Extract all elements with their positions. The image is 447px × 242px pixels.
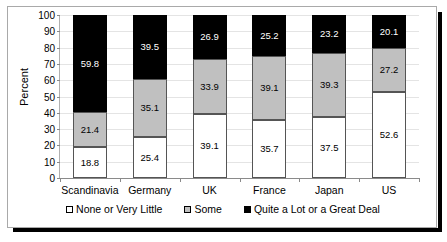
legend-item[interactable]: None or Very Little	[66, 203, 162, 215]
chart-figure: Percent 010203040506070809010018.821.459…	[7, 6, 437, 228]
bar-segment[interactable]: 27.2	[372, 48, 406, 92]
x-axis-category-label: Japan	[315, 184, 344, 196]
y-axis-tick-label: 0	[49, 173, 55, 184]
bar-segment[interactable]: 37.5	[312, 117, 346, 178]
y-axis-tick-label: 30	[44, 124, 55, 135]
y-axis-tick-mark	[57, 129, 60, 130]
bar-segment[interactable]: 59.8	[73, 15, 107, 112]
bar-stack[interactable]: 25.435.139.5	[133, 15, 167, 178]
x-axis-tick-mark	[60, 178, 61, 182]
gridline	[60, 129, 419, 130]
bar-segment[interactable]: 39.1	[193, 114, 227, 178]
legend-swatch-icon	[184, 206, 191, 213]
y-axis-tick-label: 70	[44, 58, 55, 69]
y-axis-tick-label: 50	[44, 91, 55, 102]
bar-segment[interactable]: 23.2	[312, 15, 346, 53]
y-axis-tick-label: 20	[44, 140, 55, 151]
bar-segment[interactable]: 18.8	[73, 147, 107, 178]
bar-segment[interactable]: 39.3	[312, 53, 346, 117]
y-axis-tick-label: 60	[44, 75, 55, 86]
x-axis-tick-mark	[419, 178, 420, 182]
figure-shadow-right	[438, 12, 442, 230]
y-axis-tick-mark	[57, 162, 60, 163]
gridline	[60, 64, 419, 65]
y-axis-tick-mark	[57, 97, 60, 98]
y-axis-tick-mark	[57, 15, 60, 16]
bar-stack[interactable]: 52.627.220.1	[372, 15, 406, 178]
legend-label: Some	[194, 203, 221, 215]
x-axis-category-label: Germany	[128, 184, 171, 196]
gridline	[60, 162, 419, 163]
legend-label: None or Very Little	[76, 203, 162, 215]
legend-item[interactable]: Some	[184, 203, 221, 215]
legend-label: Quite a Lot or a Great Deal	[254, 203, 380, 215]
y-axis-tick-mark	[57, 64, 60, 65]
bar-segment[interactable]: 25.4	[133, 137, 167, 178]
x-axis-tick-mark	[120, 178, 121, 182]
x-axis-category-label: France	[253, 184, 286, 196]
y-axis-tick-label: 40	[44, 107, 55, 118]
y-axis-tick-mark	[57, 113, 60, 114]
gridline	[60, 113, 419, 114]
x-axis-tick-mark	[180, 178, 181, 182]
chart-legend: None or Very LittleSomeQuite a Lot or a …	[8, 203, 438, 215]
x-axis-tick-mark	[240, 178, 241, 182]
bar-segment[interactable]: 35.1	[133, 79, 167, 136]
gridline	[60, 31, 419, 32]
y-axis-tick-mark	[57, 80, 60, 81]
bar-stack[interactable]: 18.821.459.8	[73, 15, 107, 178]
gridline	[60, 15, 419, 16]
x-axis-tick-mark	[359, 178, 360, 182]
legend-swatch-icon	[66, 206, 73, 213]
y-axis-title: Percent	[18, 27, 30, 147]
bar-segment[interactable]: 39.5	[133, 15, 167, 79]
bar-stack[interactable]: 35.739.125.2	[252, 15, 286, 178]
y-axis-tick-mark	[57, 31, 60, 32]
x-axis-tick-mark	[299, 178, 300, 182]
bar-segment[interactable]: 39.1	[252, 56, 286, 120]
bar-segment[interactable]: 33.9	[193, 59, 227, 114]
bar-segment[interactable]: 21.4	[73, 112, 107, 147]
bar-segment[interactable]: 20.1	[372, 15, 406, 48]
gridline	[60, 80, 419, 81]
legend-swatch-icon	[244, 206, 251, 213]
y-axis-tick-label: 10	[44, 156, 55, 167]
bar-segment[interactable]: 35.7	[252, 120, 286, 178]
bar-segment[interactable]: 52.6	[372, 92, 406, 178]
x-axis-category-label: US	[382, 184, 397, 196]
y-axis-tick-label: 90	[44, 26, 55, 37]
gridline	[60, 48, 419, 49]
x-axis-category-label: UK	[202, 184, 217, 196]
plot-area: 010203040506070809010018.821.459.8Scandi…	[59, 15, 419, 179]
x-axis-category-label: Scandinavia	[61, 184, 118, 196]
bar-stack[interactable]: 39.133.926.9	[193, 15, 227, 178]
bar-segment[interactable]: 26.9	[193, 15, 227, 59]
gridline	[60, 145, 419, 146]
bar-segment[interactable]: 25.2	[252, 15, 286, 56]
y-axis-tick-label: 100	[38, 10, 55, 21]
y-axis-tick-mark	[57, 48, 60, 49]
legend-item[interactable]: Quite a Lot or a Great Deal	[244, 203, 380, 215]
bar-stack[interactable]: 37.539.323.2	[312, 15, 346, 178]
y-axis-tick-mark	[57, 145, 60, 146]
gridline	[60, 97, 419, 98]
y-axis-tick-label: 80	[44, 42, 55, 53]
figure-shadow-bottom	[13, 228, 442, 232]
